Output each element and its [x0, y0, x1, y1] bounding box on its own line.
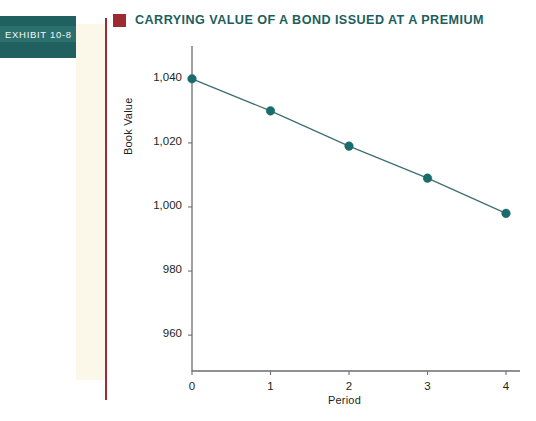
y-tick-label: 980 [140, 263, 182, 275]
y-tick-label: 1,040 [140, 71, 182, 83]
x-tick-label: 2 [337, 380, 361, 392]
y-axis-title: Book Value [122, 98, 134, 155]
y-tick-label: 1,000 [140, 199, 182, 211]
x-tick-label: 3 [416, 380, 440, 392]
line-chart: Book Value Period 9609801,0001,0201,0400… [0, 0, 536, 421]
x-tick-label: 0 [180, 380, 204, 392]
x-tick-label: 1 [259, 380, 283, 392]
y-tick-label: 960 [140, 327, 182, 339]
y-tick-label: 1,020 [140, 135, 182, 147]
chart-canvas [0, 0, 536, 421]
x-axis-title: Period [328, 394, 361, 406]
x-tick-label: 4 [494, 380, 518, 392]
